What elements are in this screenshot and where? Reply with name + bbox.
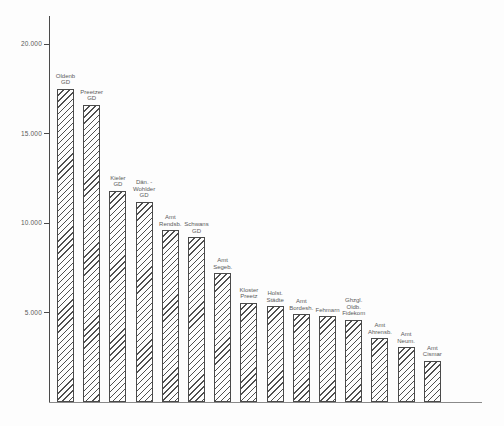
bar-3 [136, 202, 153, 402]
bar-label-12: AmtAhrensb. [357, 322, 403, 335]
bar-label-11: Ghzgl.Oldb.Fidekom [331, 297, 377, 317]
x-axis-baseline [49, 402, 482, 403]
bar-label-4: AmtRendsb. [147, 214, 193, 227]
bar-12 [371, 338, 388, 402]
y-axis-line [49, 16, 50, 403]
bar-14 [424, 361, 441, 402]
bar-label-5: SchwansGD [174, 221, 220, 234]
y-tick-label: 15.000 [0, 130, 42, 137]
bar-label-6: AmtSegeb. [200, 257, 246, 270]
y-tick-mark [44, 223, 49, 224]
bar-10 [319, 316, 336, 402]
bar-2 [109, 191, 126, 402]
bar-label-14: AmtCismar [409, 345, 455, 358]
bar-label-2: KielerGD [95, 175, 141, 188]
bar-label-7: KlosterPreetz [226, 287, 272, 300]
bar-11 [345, 320, 362, 402]
y-tick-mark [44, 133, 49, 134]
bar-0 [57, 89, 74, 402]
bar-13 [398, 347, 415, 402]
bar-8 [267, 306, 284, 402]
bar-label-13: AmtNeum. [383, 331, 429, 344]
bar-5 [188, 237, 205, 402]
bar-4 [162, 230, 179, 402]
bar-label-10: Fehmarn [305, 307, 351, 314]
y-tick-mark [44, 44, 49, 45]
y-tick-label: 20.000 [0, 40, 42, 47]
y-tick-label: 10.000 [0, 219, 42, 226]
bar-9 [293, 314, 310, 402]
bar-1 [83, 105, 100, 402]
y-tick-label: 5.000 [0, 309, 42, 316]
y-tick-mark [44, 312, 49, 313]
bar-label-8: Holst.Städte [252, 290, 298, 303]
bar-chart-canvas: 5.00010.00015.00020.000 OldenbGDPreetzer… [0, 0, 504, 426]
bar-label-1: PreetzerGD [69, 89, 115, 102]
bar-label-9: AmtBordesh. [278, 298, 324, 311]
bar-label-3: Dän. -WohlderGD [121, 179, 167, 199]
bar-6 [214, 273, 231, 402]
bar-7 [240, 303, 257, 402]
